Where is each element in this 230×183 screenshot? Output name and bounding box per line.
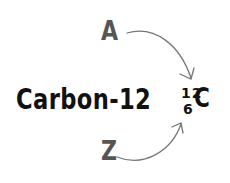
arrows-layer (0, 0, 230, 183)
arrow-z-to-atomic-icon (117, 123, 183, 160)
arrow-a-to-mass-icon (127, 31, 194, 79)
